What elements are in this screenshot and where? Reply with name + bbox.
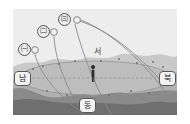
astronomy-star-path-figure: ㈠ ㈡ ㈢ 남 서 북 동: [0, 0, 190, 124]
direction-label-north: 북: [159, 71, 176, 86]
direction-label-east: 동: [79, 98, 96, 113]
diagram-plate: ㈠ ㈡ ㈢ 남 서 북 동: [13, 9, 177, 115]
star-node-b: [51, 29, 58, 36]
star-node-a: [32, 47, 39, 54]
star-marker-a: ㈠: [18, 43, 31, 56]
star-marker-b: ㈡: [37, 25, 50, 38]
direction-label-south: 남: [14, 71, 31, 86]
direction-label-west: 서: [91, 47, 103, 57]
star-marker-c: ㈢: [58, 13, 71, 26]
star-node-c: [74, 17, 81, 24]
